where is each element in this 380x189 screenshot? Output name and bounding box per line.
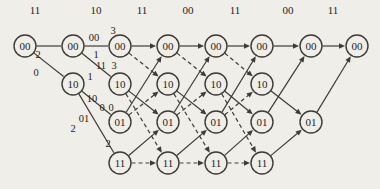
trellis-node-label-c6-01: 01 bbox=[306, 116, 317, 128]
metric-label: 10 bbox=[87, 93, 98, 104]
metric-label: 00 bbox=[89, 32, 100, 43]
metric-label: 0 bbox=[33, 67, 38, 78]
trellis-node-label-c3-01: 01 bbox=[163, 116, 174, 128]
metric-label: 2 bbox=[105, 138, 110, 149]
metric-label: 0 bbox=[99, 102, 104, 113]
trellis-node-label-c3-00: 00 bbox=[163, 40, 175, 52]
trellis-node-label-c4-11: 11 bbox=[211, 157, 222, 169]
trellis-node-label-c5-11: 11 bbox=[257, 157, 268, 169]
metric-label: 11 bbox=[96, 60, 106, 71]
metric-label: 1 bbox=[93, 49, 98, 60]
trellis-node-label-c4-01: 01 bbox=[211, 116, 222, 128]
paper-background bbox=[0, 0, 380, 189]
trellis-node-label-c2-10: 10 bbox=[115, 78, 127, 90]
received-bits-label: 11 bbox=[137, 4, 148, 16]
metric-label: 01 bbox=[79, 113, 90, 124]
received-bits-label: 11 bbox=[30, 4, 41, 16]
metric-label: 2 bbox=[70, 123, 75, 134]
trellis-node-label-c4-00: 00 bbox=[211, 40, 223, 52]
trellis-node-label-c5-00: 00 bbox=[257, 40, 269, 52]
trellis-node-label-c7-00: 00 bbox=[352, 40, 364, 52]
received-bits-label: 00 bbox=[283, 4, 295, 16]
received-bits-label: 00 bbox=[183, 4, 195, 16]
metric-label: 1 bbox=[87, 71, 92, 82]
trellis-node-label-c1-10: 10 bbox=[68, 78, 80, 90]
trellis-node-label-c3-11: 11 bbox=[163, 157, 174, 169]
trellis-node-label-c2-11: 11 bbox=[115, 157, 126, 169]
metric-label: 3 bbox=[110, 25, 115, 36]
trellis-node-label-c5-10: 10 bbox=[257, 78, 269, 90]
trellis-node-label-c4-10: 10 bbox=[211, 78, 223, 90]
trellis-node-label-c2-00: 00 bbox=[115, 40, 127, 52]
trellis-node-label-c0-00: 00 bbox=[20, 40, 32, 52]
metric-label: 2 bbox=[35, 49, 40, 60]
trellis-node-label-c1-00: 00 bbox=[68, 40, 80, 52]
trellis-node-label-c2-01: 01 bbox=[115, 116, 126, 128]
trellis-node-label-c3-10: 10 bbox=[163, 78, 175, 90]
trellis-node-label-c5-01: 01 bbox=[257, 116, 268, 128]
trellis-figure: 0000100010011100100111001001110010011100… bbox=[0, 0, 380, 189]
trellis-diagram: 0000100010011100100111001001110010011100… bbox=[0, 0, 380, 189]
received-bits-label: 11 bbox=[328, 4, 339, 16]
received-bits-label: 11 bbox=[230, 4, 241, 16]
metric-label: 0 bbox=[108, 102, 113, 113]
received-bits-label: 10 bbox=[91, 4, 103, 16]
metric-label: 3 bbox=[111, 60, 116, 71]
trellis-node-label-c6-00: 00 bbox=[306, 40, 318, 52]
